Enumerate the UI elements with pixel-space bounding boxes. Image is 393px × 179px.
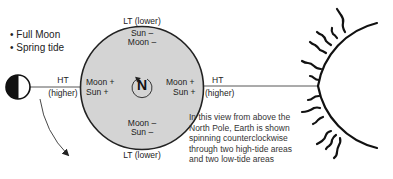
sun-icon (302, 9, 377, 158)
earth-right-line1: Moon + (166, 77, 195, 87)
earth-bottom-line2: Sun – (117, 127, 167, 137)
note-line: In this view from above the (189, 112, 292, 123)
earth-right-line2: Sun + (173, 87, 195, 97)
moon-side-ht-label: HT (46, 75, 80, 85)
sun-side-ht-label: HT (212, 75, 223, 85)
sun-side-ht-sub: (higher) (205, 88, 234, 98)
earth-top-line2: Moon – (117, 37, 167, 47)
moon-side-ht-sub: (higher) (43, 88, 83, 98)
legend-item-phase: • Full Moon (10, 29, 64, 42)
note-line: spinning counterclockwise (189, 133, 292, 144)
earth-top-lt-label: LT (lower) (117, 16, 167, 26)
north-pole-label: N (135, 77, 149, 93)
orbit-arrow-icon (40, 99, 68, 155)
moon-icon (6, 75, 30, 99)
note-line: through two high-tide areas (189, 144, 292, 155)
explanation-note: In this view from above the North Pole, … (189, 112, 292, 165)
legend-item-tide: • Spring tide (10, 42, 64, 55)
note-line: North Pole, Earth is shown (189, 123, 292, 134)
earth-bottom-lt-label: LT (lower) (117, 150, 167, 160)
earth-left-line1: Moon + (86, 77, 115, 87)
earth-left-line2: Sun + (86, 87, 108, 97)
legend: • Full Moon • Spring tide (10, 29, 64, 54)
note-line: and two low-tide areas (189, 154, 292, 165)
